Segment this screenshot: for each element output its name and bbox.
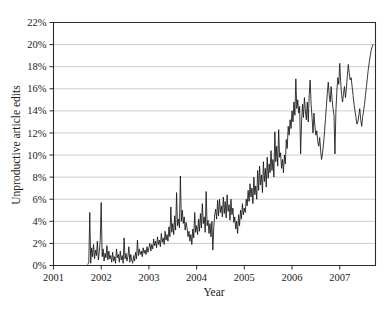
x-tick-label-2003: 2003 [138,272,159,283]
y-tick-label-4: 4% [33,216,47,227]
y-tick-label-10: 10% [27,150,47,161]
y-tick-label-22: 22% [27,17,47,28]
y-tick-label-18: 18% [27,61,47,72]
x-axis-tick-labels: 2001200220032004200520062007 [43,272,350,283]
series-line-0 [88,45,373,265]
y-tick-label-2: 2% [33,238,47,249]
y-tick-label-16: 16% [27,83,47,94]
x-axis-title: Year [203,286,224,298]
y-tick-label-14: 14% [27,105,47,116]
x-tick-label-2002: 2002 [91,272,112,283]
chart-figure: 0%2%4%6%8%10%12%14%16%18%20%22% 20012002… [0,0,387,309]
x-tick-label-2005: 2005 [234,272,255,283]
x-tick-label-2007: 2007 [329,272,350,283]
y-tick-label-12: 12% [27,128,47,139]
y-tick-label-6: 6% [33,194,47,205]
x-tick-label-2006: 2006 [282,272,303,283]
x-tick-label-2001: 2001 [43,272,64,283]
y-tick-label-20: 20% [27,39,47,50]
line-chart-canvas: 0%2%4%6%8%10%12%14%16%18%20%22% 20012002… [0,0,387,309]
tick-marks [50,23,340,270]
data-series [88,45,373,265]
x-tick-label-2004: 2004 [186,272,208,283]
gridlines [54,23,376,244]
y-axis-tick-labels: 0%2%4%6%8%10%12%14%16%18%20%22% [27,17,47,271]
y-axis-title: Unproductive article edits [10,85,23,205]
y-tick-label-8: 8% [33,172,47,183]
y-tick-label-0: 0% [33,260,47,271]
